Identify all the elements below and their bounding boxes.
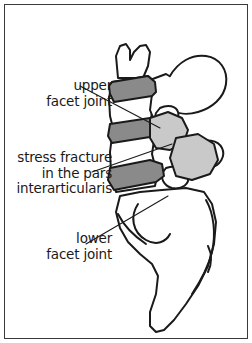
illustration-figure: upper facet joint stress fracture in the… [0, 0, 252, 343]
label-upper-facet-joint-line2: facet joint [6, 94, 112, 110]
label-stress-fracture: stress fracture in the pars interarticul… [2, 150, 112, 197]
label-stress-fracture-line1: stress fracture [2, 150, 112, 166]
label-upper-facet-joint: upper facet joint [6, 78, 112, 109]
sacrum [116, 188, 216, 332]
label-stress-fracture-line2: in the pars [2, 166, 112, 182]
label-lower-facet-joint-line2: facet joint [6, 247, 112, 263]
upper-spinous-process [170, 56, 226, 114]
label-upper-facet-joint-line1: upper [6, 78, 112, 94]
label-lower-facet-joint-line1: lower [6, 231, 112, 247]
label-lower-facet-joint: lower facet joint [6, 231, 112, 262]
upper-vertebra-superior-process [116, 44, 150, 78]
label-stress-fracture-line3: interarticularis [2, 181, 112, 197]
middle-facet-block-shade [170, 134, 218, 180]
